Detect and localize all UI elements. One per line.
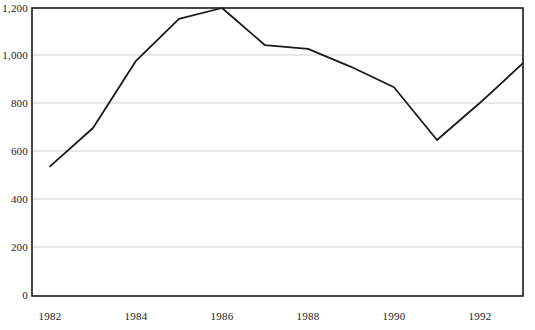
x-tick-label-1982: 1982 [20, 311, 80, 322]
x-tick-label-1986: 1986 [192, 311, 252, 322]
y-tick-label-400: 400 [0, 194, 28, 205]
y-tick-label-800: 800 [0, 98, 28, 109]
y-tick-label-1200: 1,200 [0, 3, 28, 14]
series-line [50, 8, 523, 166]
y-tick-label-0: 0 [0, 290, 28, 301]
y-tick-label-1000: 1,000 [0, 50, 28, 61]
y-tick-label-200: 200 [0, 242, 28, 253]
x-tick-label-1992: 1992 [450, 311, 510, 322]
chart-canvas [0, 0, 535, 330]
line-chart: 0 200 400 600 800 1,000 1,200 1982 1984 … [0, 0, 535, 330]
x-tick-label-1990: 1990 [364, 311, 424, 322]
gridlines [32, 55, 523, 247]
plot-frame [32, 8, 523, 296]
y-tick-label-600: 600 [0, 146, 28, 157]
x-tick-label-1988: 1988 [278, 311, 338, 322]
x-tick-label-1984: 1984 [106, 311, 166, 322]
